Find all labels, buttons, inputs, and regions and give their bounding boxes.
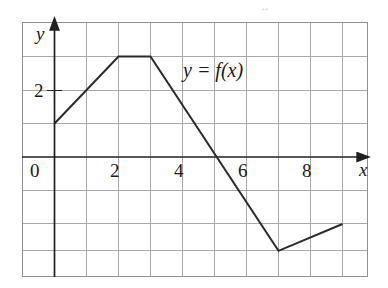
- figure-canvas: ..: [0, 0, 388, 288]
- x-tick-label-6: 6: [238, 161, 248, 180]
- x-tick-label-4: 4: [174, 161, 184, 180]
- x-tick-label-0: 0: [30, 161, 40, 180]
- function-equation-label: y = f(x): [183, 60, 243, 80]
- x-axis-label: x: [359, 160, 367, 179]
- x-tick-label-8: 8: [302, 161, 312, 180]
- graph-svg: [0, 0, 388, 288]
- y-tick-label-2: 2: [34, 81, 44, 100]
- y-axis-label: y: [36, 24, 44, 43]
- x-tick-label-2: 2: [110, 161, 120, 180]
